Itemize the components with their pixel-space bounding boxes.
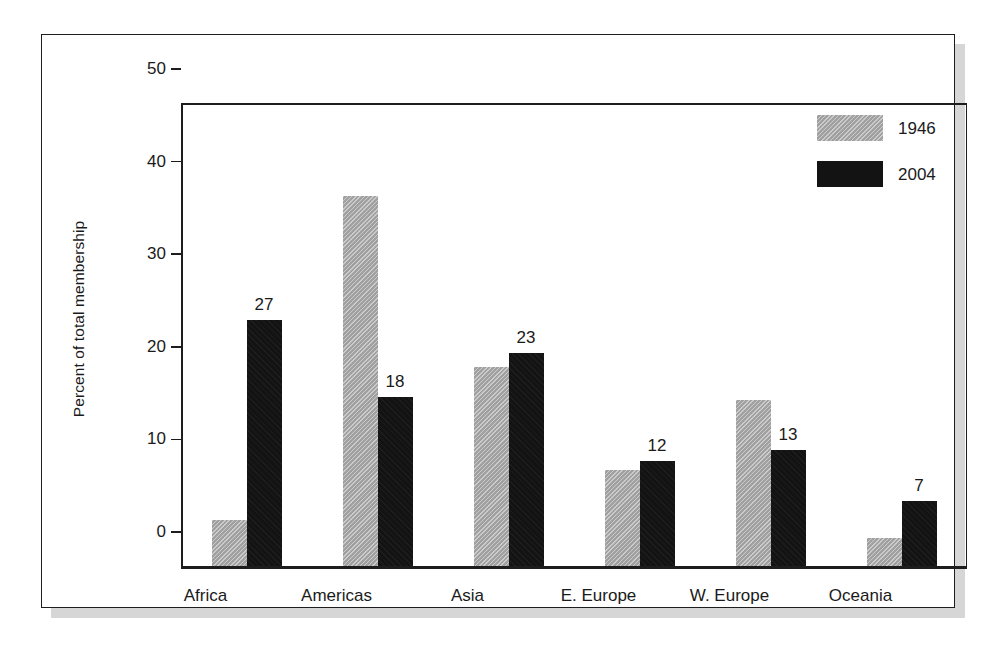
- y-axis-tick: [171, 68, 181, 70]
- bar-asia-2004: [509, 353, 544, 566]
- bar-value-label: 7: [889, 477, 949, 494]
- chart-legend: 19462004: [817, 113, 957, 205]
- y-axis-tick-label: 10: [106, 430, 166, 447]
- y-axis-tick-label: 20: [106, 338, 166, 355]
- y-axis-tick: [171, 531, 181, 533]
- y-axis-title-text: Percent of total membership: [70, 119, 88, 519]
- legend-label: 1946: [898, 120, 936, 137]
- x-axis-line: [181, 566, 967, 569]
- bar-value-label: 13: [758, 426, 818, 443]
- y-axis-tick: [171, 253, 181, 255]
- chart-figure-frame: 01020304050 Percent of total membership …: [41, 34, 955, 608]
- bar-africa-1946: [212, 520, 247, 566]
- y-axis-tick-label: 50: [106, 60, 166, 77]
- x-axis-label-oceania: Oceania: [781, 587, 941, 605]
- bar-asia-1946: [474, 367, 509, 566]
- bar-e-europe-1946: [605, 470, 640, 566]
- legend-item-2004: 2004: [817, 159, 957, 189]
- y-axis-tick: [171, 346, 181, 348]
- bar-value-label: 18: [365, 373, 425, 390]
- legend-item-1946: 1946: [817, 113, 957, 143]
- bar-value-label: 23: [496, 329, 556, 346]
- bar-oceania-1946: [867, 538, 902, 566]
- bar-americas-2004: [378, 397, 413, 566]
- bar-value-label: 27: [234, 296, 294, 313]
- y-axis-tick-label: 30: [106, 245, 166, 262]
- legend-label: 2004: [898, 166, 936, 183]
- bar-w-europe-2004: [771, 450, 806, 566]
- y-axis-tick: [171, 439, 181, 441]
- y-axis-tick: [171, 161, 181, 163]
- bar-e-europe-2004: [640, 461, 675, 566]
- gray-swatch: [817, 115, 883, 141]
- bar-africa-2004: [247, 320, 282, 566]
- y-axis-tick-label: 40: [106, 153, 166, 170]
- black-swatch: [817, 161, 883, 187]
- bar-w-europe-1946: [736, 400, 771, 566]
- bar-value-label: 12: [627, 437, 687, 454]
- y-axis-tick-label: 0: [106, 523, 166, 540]
- bar-oceania-2004: [902, 501, 937, 566]
